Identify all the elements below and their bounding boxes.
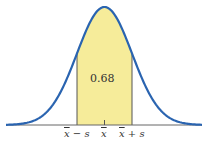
tick-label-mean-minus-s: x − s	[64, 128, 90, 139]
shaded-area	[77, 7, 132, 125]
tick-label-mean-plus-s: x + s	[119, 128, 145, 139]
tick-label-mean: x	[101, 128, 107, 139]
area-label: 0.68	[90, 72, 115, 85]
